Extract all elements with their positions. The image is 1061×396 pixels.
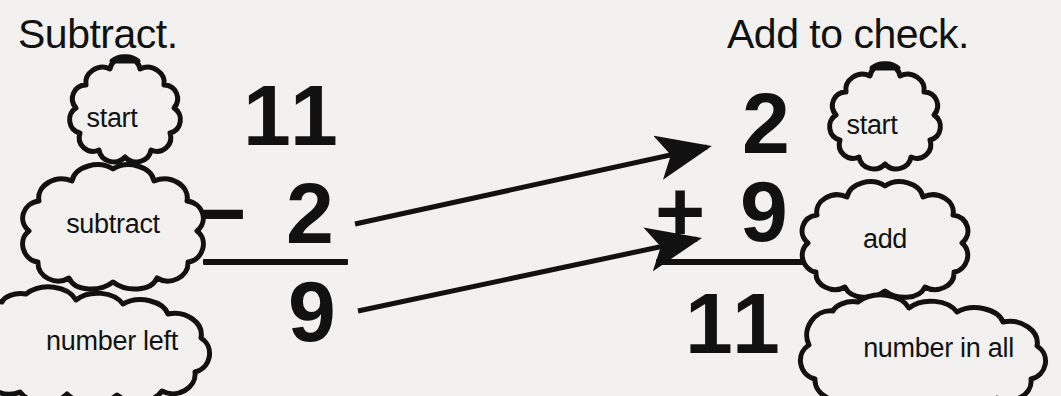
plus-operator: + [655, 168, 705, 254]
subtraction-minuend: 11 [243, 72, 342, 158]
addition-addend-bottom: 9 [740, 168, 792, 254]
heading-subtract: Subtract. [18, 14, 178, 55]
callout-number-in-all: number in all [816, 292, 1061, 396]
callout-number-left: number left [0, 284, 226, 396]
arrow-difference-to-addend [358, 239, 697, 311]
addition-sum: 11 [685, 280, 784, 366]
addition-rule [656, 259, 804, 265]
subtraction-difference: 9 [288, 268, 340, 354]
callout-add: add [800, 180, 970, 298]
subtraction-subtrahend: 2 [286, 170, 338, 256]
callout-start-right: start [806, 62, 938, 188]
heading-add-to-check: Add to check. [727, 14, 969, 55]
worksheet-diagram: Subtract. Add to check. 11 − 2 9 2 + 9 1… [0, 0, 1061, 396]
callout-subtract: subtract [18, 163, 208, 286]
addition-addend-top: 2 [742, 80, 794, 166]
